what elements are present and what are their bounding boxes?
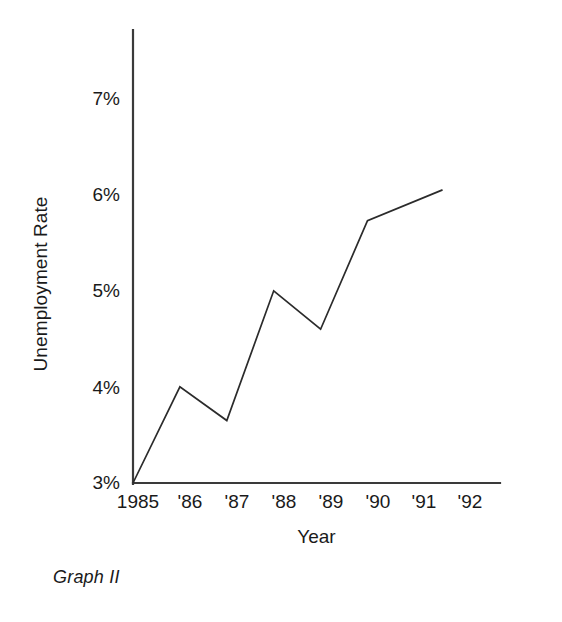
x-axis-title: Year — [133, 526, 500, 548]
x-tick-label: '87 — [225, 492, 250, 511]
x-tick-label: '88 — [272, 492, 297, 511]
x-tick-label: 1985 — [117, 492, 159, 511]
x-tick-label: '90 — [366, 492, 391, 511]
graph-figure: Unemployment Rate 3% 4% 5% 6% 7% 1985 '8… — [0, 0, 562, 622]
x-tick-label: '92 — [458, 492, 483, 511]
figure-caption: Graph II — [53, 567, 120, 588]
x-tick-label: '86 — [178, 492, 203, 511]
x-tick-label: '91 — [412, 492, 437, 511]
x-tick-label: '89 — [319, 492, 344, 511]
